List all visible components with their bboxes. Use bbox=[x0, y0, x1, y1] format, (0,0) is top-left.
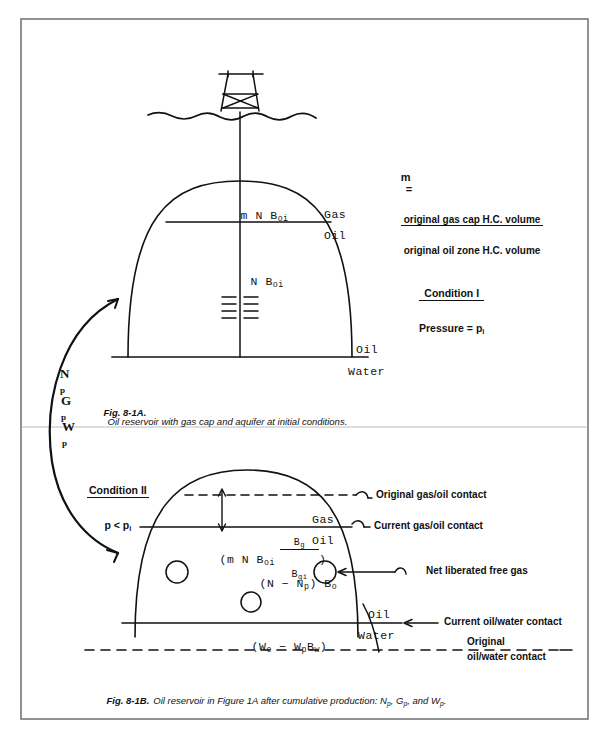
transition-symbol-np: Np bbox=[60, 368, 75, 395]
transition-symbol-wp: Wp bbox=[60, 421, 75, 448]
condition-i-box: Condition I Pressure = pi bbox=[419, 267, 484, 356]
condition-i-pressure: Pressure = pi bbox=[419, 322, 484, 336]
figure-page: m = original gas cap H.C. volume origina… bbox=[0, 0, 610, 736]
annotation-original-gas-oil-contact: Original gas/oil contact bbox=[376, 490, 487, 500]
gas-bubble-left bbox=[166, 561, 188, 583]
label-oil-remaining-b: (N − Np) Bo bbox=[230, 566, 337, 603]
label-water-influx-b: (We − WpBw) bbox=[222, 629, 327, 666]
ratio-lhs: m bbox=[401, 172, 411, 183]
label-water-b: Water bbox=[358, 630, 395, 642]
condition-ii-box: Condition II p < pi bbox=[87, 464, 149, 553]
label-gas-cap-volume-a: m N Boi bbox=[211, 198, 289, 235]
label-gas-b: Gas bbox=[312, 514, 334, 526]
label-oil-upper-a: Oil bbox=[324, 230, 346, 242]
caption-fig-8-1b: Fig. 8-1B.Oil reservoir in Figure 1A aft… bbox=[96, 686, 446, 717]
caption-b-prefix: Fig. 8-1B. bbox=[107, 695, 150, 706]
annotation-current-oil-water-contact: Current oil/water contact bbox=[444, 617, 562, 627]
page-border bbox=[21, 19, 588, 719]
sea-surface-line bbox=[148, 113, 316, 120]
label-oil-upper-b: Oil bbox=[312, 535, 334, 547]
annotation-original-oil-water-contact-line2: oil/water contact bbox=[467, 652, 546, 662]
condition-i-title: Condition I bbox=[419, 288, 484, 301]
caption-fig-8-1a: Fig. 8-1A. Oil reservoir with gas cap an… bbox=[93, 398, 347, 436]
condition-ii-pressure: p < pi bbox=[87, 519, 149, 533]
condition-ii-title: Condition II bbox=[87, 485, 149, 498]
label-gas-a: Gas bbox=[324, 209, 346, 221]
ratio-denominator: original oil zone H.C. volume bbox=[401, 246, 544, 256]
caption-a-text: Oil reservoir with gas cap and aquifer a… bbox=[104, 416, 348, 427]
label-water-a: Water bbox=[348, 366, 385, 378]
label-oil-lower-a: Oil bbox=[356, 344, 378, 356]
ratio-numerator: original gas cap H.C. volume bbox=[401, 215, 544, 226]
caption-b-wp: W bbox=[431, 695, 440, 706]
caption-b-np: N bbox=[380, 695, 387, 706]
annotation-current-gas-oil-contact: Current gas/oil contact bbox=[374, 521, 483, 531]
label-oil-lower-b: Oil bbox=[368, 609, 390, 621]
transition-symbols: Np Gp Wp bbox=[60, 368, 75, 448]
ratio-equals: = bbox=[401, 184, 417, 195]
drilling-derrick bbox=[219, 71, 263, 111]
annotation-original-oil-water-contact-line1: Original bbox=[467, 637, 505, 647]
transition-symbol-gp: Gp bbox=[60, 395, 75, 422]
caption-b-text: Oil reservoir in Figure 1A after cumulat… bbox=[149, 695, 380, 706]
label-oil-volume-a: N Boi bbox=[221, 264, 284, 301]
annotation-net-liberated-free-gas: Net liberated free gas bbox=[426, 566, 528, 576]
